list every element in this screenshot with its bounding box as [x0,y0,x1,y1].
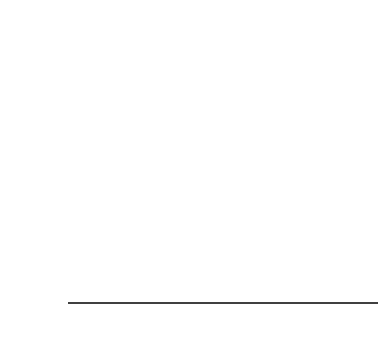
chart-container [0,0,388,337]
employment-trends-chart [0,0,388,337]
